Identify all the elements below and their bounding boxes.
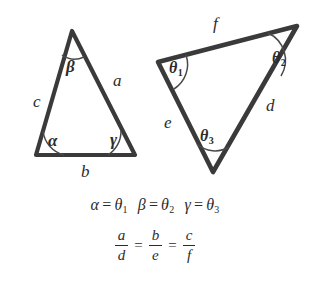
angle-label-beta: β [66, 58, 75, 75]
angle-label-alpha: α [48, 132, 57, 149]
alpha-symbol: α [91, 196, 100, 213]
theta3-glyph: θ [200, 127, 208, 144]
equals-sign-2: = [149, 196, 158, 213]
fraction-denominator-d: d [115, 246, 129, 264]
fraction-b-over-e: be [149, 227, 163, 264]
side-label-c: c [33, 93, 41, 110]
theta-symbol-2: θ [161, 196, 169, 213]
side-label-e: e [164, 114, 172, 131]
fraction-a-over-d: ad [115, 227, 129, 264]
similar-triangles-figure: β α γ c a b θ1 θ2 θ3 f d e α=θ1β=θ2γ=θ3 … [0, 0, 310, 288]
fraction-denominator-e: e [149, 246, 163, 264]
equality-alpha-theta1: α=θ1 [91, 196, 128, 215]
side-label-b: b [81, 163, 90, 180]
angle-label-theta2: θ2 [272, 50, 286, 68]
angle-label-theta3: θ3 [200, 128, 214, 146]
side-label-a: a [113, 72, 122, 89]
angle-equalities-line: α=θ1β=θ2γ=θ3 [0, 196, 310, 215]
theta-subscript-2: 2 [169, 204, 174, 215]
angle-label-theta1: θ1 [169, 60, 183, 78]
theta-symbol-3: θ [206, 196, 214, 213]
equals-sign-5: = [168, 237, 176, 254]
fraction-numerator-a: a [115, 227, 129, 246]
gamma-symbol: γ [184, 196, 191, 213]
ratio-equalities-line: ad=be=cf [0, 227, 310, 264]
equals-sign-1: = [102, 196, 111, 213]
equations-block: α=θ1β=θ2γ=θ3 ad=be=cf [0, 196, 310, 263]
fraction-numerator-b: b [149, 227, 163, 246]
fraction-c-over-f: cf [183, 227, 196, 264]
side-label-f: f [213, 15, 218, 32]
theta1-subscript: 1 [178, 67, 183, 78]
theta2-glyph: θ [272, 49, 280, 66]
theta2-subscript: 2 [281, 57, 286, 68]
equality-beta-theta2: β=θ2 [138, 196, 175, 215]
theta-symbol-1: θ [114, 196, 122, 213]
side-label-d: d [266, 97, 275, 114]
equals-sign-4: = [134, 237, 142, 254]
theta3-subscript: 3 [209, 135, 214, 146]
equality-gamma-theta3: γ=θ3 [184, 196, 219, 215]
large-triangle-shape [158, 26, 297, 172]
theta-subscript-1: 1 [123, 204, 128, 215]
fraction-denominator-f: f [183, 246, 196, 264]
beta-symbol: β [138, 196, 146, 213]
theta1-glyph: θ [169, 59, 177, 76]
angle-label-gamma: γ [110, 131, 117, 148]
equals-sign-3: = [194, 196, 203, 213]
fraction-numerator-c: c [183, 227, 196, 246]
theta-subscript-3: 3 [214, 204, 219, 215]
large-triangle-outline [158, 26, 297, 172]
